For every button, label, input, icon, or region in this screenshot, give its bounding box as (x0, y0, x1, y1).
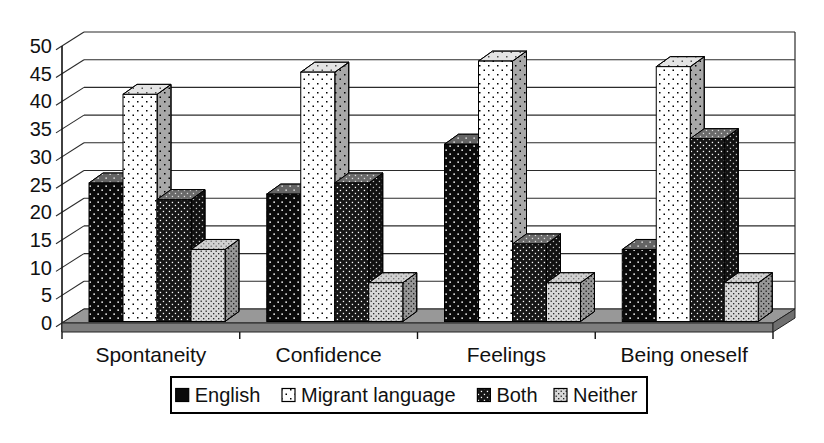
bar-front-face (369, 283, 403, 322)
bar-front-face (191, 249, 225, 321)
y-tick-line (56, 198, 84, 216)
y-axis-label: 40 (30, 90, 52, 112)
y-tick-line (56, 115, 84, 133)
y-tick-line (56, 254, 84, 272)
bar-neither-confidence (369, 273, 417, 322)
bar-front-face (622, 249, 656, 321)
bar-front-face (157, 200, 191, 322)
legend: EnglishMigrant languageBothNeither (171, 377, 647, 413)
bar-front-face (267, 194, 301, 321)
legend-swatch-english (176, 389, 189, 402)
legend-label: English (195, 384, 261, 406)
legend-label: Migrant language (301, 384, 456, 406)
y-tick-line (56, 281, 84, 299)
y-axis-label: 35 (30, 118, 52, 140)
y-tick-line (56, 32, 84, 50)
bar-front-face (656, 67, 690, 322)
bar-front-face (690, 139, 724, 322)
y-axis-label: 5 (41, 284, 52, 306)
legend-swatch-both (477, 389, 490, 402)
category-label-confidence: Confidence (276, 343, 382, 366)
y-tick-line (56, 226, 84, 244)
legend-swatch-neither (554, 389, 567, 402)
bar-front-face (513, 244, 547, 322)
category-label-being-oneself: Being oneself (620, 343, 747, 366)
bar-front-face (479, 61, 513, 321)
bar-front-face (547, 283, 581, 322)
chart-canvas: 05101520253035404550SpontaneityConfidenc… (0, 0, 824, 443)
category-label-feelings: Feelings (467, 343, 546, 366)
y-axis-label: 15 (30, 229, 52, 251)
bar-front-face (123, 94, 157, 321)
y-tick-line (56, 60, 84, 78)
legend-swatch-migrant-language (282, 389, 295, 402)
bar-neither-being-oneself (724, 273, 772, 322)
y-tick-line (56, 171, 84, 189)
y-axis-label: 10 (30, 257, 52, 279)
bar-front-face (301, 72, 335, 321)
bar-face (225, 239, 239, 321)
bar-front-face (89, 183, 123, 322)
bar-front-face (445, 144, 479, 321)
y-axis-label: 50 (30, 35, 52, 57)
y-axis-label: 45 (30, 63, 52, 85)
floor-front (62, 323, 773, 332)
legend-item-migrant-language: Migrant language (282, 384, 456, 406)
bar-neither-feelings (547, 273, 595, 322)
y-axis-label: 20 (30, 201, 52, 223)
bar-front-face (724, 283, 758, 322)
category-label-spontaneity: Spontaneity (95, 343, 206, 366)
y-tick-line (56, 143, 84, 161)
legend-label: Both (496, 384, 537, 406)
y-axis-label: 30 (30, 146, 52, 168)
y-axis-label: 25 (30, 174, 52, 196)
figure-3d-bar-chart: 05101520253035404550SpontaneityConfidenc… (0, 0, 824, 443)
bar-front-face (335, 183, 369, 322)
y-axis-label: 0 (41, 312, 52, 334)
legend-label: Neither (573, 384, 638, 406)
y-tick-line (56, 87, 84, 105)
bar-neither-spontaneity (191, 239, 239, 321)
